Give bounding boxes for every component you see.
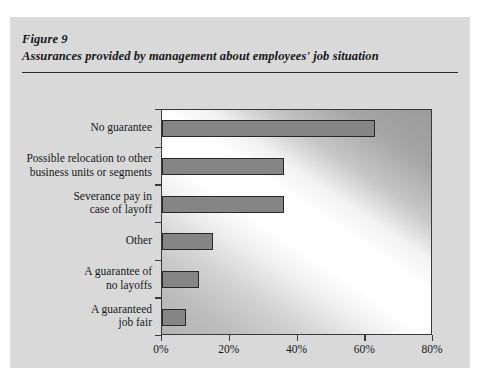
y-axis-label: Possible relocation to otherbusiness uni…: [12, 152, 152, 179]
x-axis-tick-label: 60%: [344, 343, 384, 355]
bar: [162, 120, 375, 137]
y-axis-tick: [155, 260, 161, 261]
plot-area: [161, 109, 432, 335]
y-axis-label: No guarantee: [12, 121, 152, 135]
y-axis-tick: [155, 184, 161, 185]
figure-number: Figure 9: [22, 31, 458, 48]
bar: [162, 196, 284, 213]
y-axis-label: Severance pay incase of layoff: [12, 190, 152, 217]
bar-chart: No guaranteePossible relocation to other…: [10, 85, 470, 368]
y-axis-label-line: business units or segments: [12, 166, 152, 180]
y-axis-label: A guarantee ofno layoffs: [12, 265, 152, 292]
x-axis-tick-label: 0%: [141, 343, 181, 355]
x-axis-tick: [432, 335, 433, 341]
y-axis-label: Other: [12, 234, 152, 248]
x-axis-tick: [229, 335, 230, 341]
x-axis-tick-label: 80%: [412, 343, 452, 355]
y-axis-label-line: case of layoff: [12, 203, 152, 217]
y-axis-label-line: A guaranteed: [12, 303, 152, 317]
y-axis-label-line: Severance pay in: [12, 190, 152, 204]
y-axis-label-line: A guarantee of: [12, 265, 152, 279]
y-axis-label-line: no layoffs: [12, 279, 152, 293]
y-axis-label-line: Other: [12, 234, 152, 248]
y-axis-tick: [155, 297, 161, 298]
x-axis-tick-label: 40%: [277, 343, 317, 355]
figure-title: Assurances provided by management about …: [22, 48, 458, 65]
y-axis-label-line: job fair: [12, 316, 152, 330]
x-axis-tick: [297, 335, 298, 341]
figure-header: Figure 9 Assurances provided by manageme…: [22, 31, 458, 65]
x-axis-tick-label: 20%: [209, 343, 249, 355]
x-axis-tick: [161, 335, 162, 341]
bar: [162, 158, 284, 175]
y-axis-label: A guaranteedjob fair: [12, 303, 152, 330]
y-axis-label-line: No guarantee: [12, 121, 152, 135]
y-axis-tick: [155, 109, 161, 110]
bar: [162, 309, 186, 326]
y-axis-tick: [155, 147, 161, 148]
y-axis-label-line: Possible relocation to other: [12, 152, 152, 166]
x-axis-tick: [364, 335, 365, 341]
y-axis-tick: [155, 222, 161, 223]
y-axis-category-labels: No guaranteePossible relocation to other…: [10, 85, 152, 368]
figure-panel: Figure 9 Assurances provided by manageme…: [10, 17, 470, 368]
title-divider: [22, 72, 458, 73]
bar: [162, 233, 213, 250]
bar: [162, 271, 199, 288]
